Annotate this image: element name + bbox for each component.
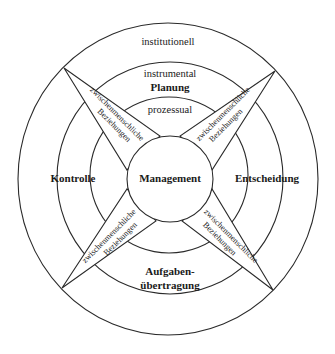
- management-diagram: institutionell instrumental prozessual P…: [0, 0, 335, 354]
- label-planung: Planung: [150, 81, 190, 93]
- label-aufgaben: Aufgaben-: [145, 265, 195, 277]
- label-uebertragung: übertragung: [140, 279, 200, 291]
- label-prozessual: prozessual: [148, 104, 192, 115]
- label-management: Management: [139, 172, 201, 184]
- label-kontrolle: Kontrolle: [50, 172, 95, 184]
- label-instrumental: instrumental: [144, 68, 197, 79]
- label-entscheidung: Entscheidung: [235, 172, 300, 184]
- label-institutionell: institutionell: [141, 36, 194, 47]
